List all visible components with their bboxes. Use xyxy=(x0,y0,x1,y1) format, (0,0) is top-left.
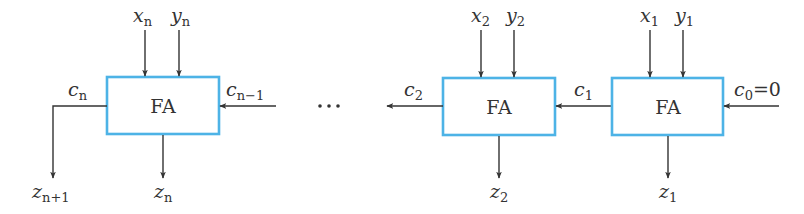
z1-label: z1 xyxy=(658,180,677,205)
ripple-carry-adder-diagram: FA xn yn cn−1 cn zn+1 zn FA x2 y2 c2 z2 xyxy=(0,0,804,214)
cn-1-label: cn−1 xyxy=(226,78,264,103)
x2-label: x2 xyxy=(471,4,490,29)
ellipsis xyxy=(318,104,340,108)
yn-label: yn xyxy=(170,4,191,29)
zn-label: zn xyxy=(153,180,173,205)
cn-carry-out-path xyxy=(53,106,107,178)
fa-n-label: FA xyxy=(150,95,176,117)
cn-label: cn xyxy=(68,78,88,103)
fa-2-label: FA xyxy=(486,96,512,118)
diagram-svg: FA xn yn cn−1 cn zn+1 zn FA x2 y2 c2 z2 xyxy=(0,0,804,214)
z2-label: z2 xyxy=(489,180,508,205)
x1-label: x1 xyxy=(640,4,659,29)
c2-label: c2 xyxy=(404,78,423,103)
zn+1-label: zn+1 xyxy=(31,180,70,205)
full-adder-2: FA x2 y2 c2 z2 xyxy=(387,4,555,205)
xn-label: xn xyxy=(133,4,153,29)
c1-label: c1 xyxy=(574,78,593,103)
fa-1-label: FA xyxy=(655,96,681,118)
y2-label: y2 xyxy=(505,4,525,29)
full-adder-n: FA xn yn cn−1 cn zn+1 zn xyxy=(31,4,276,205)
full-adder-1: FA x1 y1 c0=0 z1 xyxy=(612,4,781,205)
c0-label: c0=0 xyxy=(734,78,781,103)
y1-label: y1 xyxy=(674,4,694,29)
